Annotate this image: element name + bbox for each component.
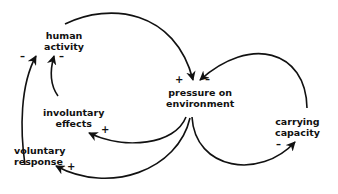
sign-pressure-plus: + <box>175 75 183 85</box>
node-carrying-capacity: carrying capacity <box>275 116 320 138</box>
sign-involuntary-plus: + <box>101 125 109 135</box>
sign-pressure-minus: – <box>205 75 210 85</box>
node-pressure-on-environment: pressure on environment <box>166 87 234 109</box>
edge-human-to-pressure <box>65 13 193 80</box>
causal-loop-diagram: human activity pressure on environment i… <box>0 0 338 194</box>
sign-voluntary-plus: + <box>67 162 75 172</box>
sign-human-left: – <box>20 52 25 62</box>
node-voluntary-response: voluntary response <box>14 145 65 167</box>
node-human-activity: human activity <box>44 30 84 52</box>
edge-involuntary-to-human <box>51 56 58 96</box>
sign-human-right: – <box>59 52 64 62</box>
sign-carrying-minus: – <box>276 140 281 150</box>
node-involuntary-effects: involuntary effects <box>43 107 104 129</box>
